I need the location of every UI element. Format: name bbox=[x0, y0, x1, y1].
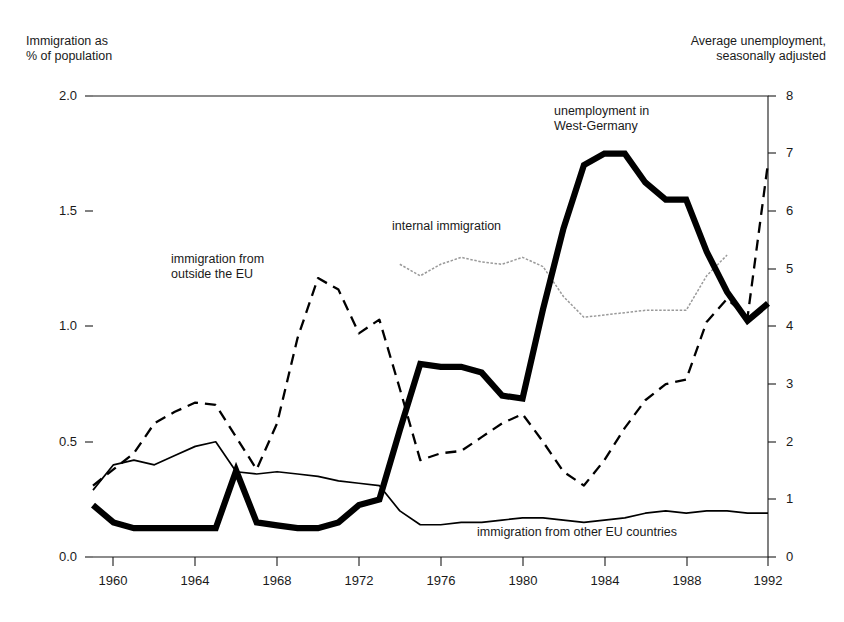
ytick-left-3: 1.5 bbox=[37, 203, 77, 218]
ytick-right-1: 1 bbox=[786, 491, 816, 506]
xtick-1984: 1984 bbox=[575, 573, 635, 588]
series-label-outside-eu: immigration from outside the EU bbox=[171, 252, 264, 282]
chart-figure: Immigration as % of population Average u… bbox=[0, 0, 844, 622]
ytick-right-3: 3 bbox=[786, 376, 816, 391]
plot-frame bbox=[93, 96, 768, 557]
series-group bbox=[93, 154, 768, 529]
xtick-1992: 1992 bbox=[738, 573, 798, 588]
series-internal-immigration bbox=[400, 255, 727, 317]
ytick-right-6: 6 bbox=[786, 203, 816, 218]
series-label-internal: internal immigration bbox=[392, 219, 501, 234]
xtick-1968: 1968 bbox=[247, 573, 307, 588]
left-axis-ticks bbox=[85, 96, 93, 557]
xtick-1980: 1980 bbox=[493, 573, 553, 588]
xtick-1964: 1964 bbox=[165, 573, 225, 588]
bottom-axis-ticks bbox=[113, 557, 768, 566]
series-label-unemployment: unemployment in West-Germany bbox=[554, 104, 649, 134]
ytick-right-0: 0 bbox=[786, 549, 816, 564]
ytick-right-8: 8 bbox=[786, 88, 816, 103]
series-unemployment-west-germany bbox=[93, 154, 768, 529]
ytick-left-1: 0.5 bbox=[37, 434, 77, 449]
ytick-left-2: 1.0 bbox=[37, 318, 77, 333]
series-label-other-eu: immigration from other EU countries bbox=[477, 525, 677, 540]
series-immigration-other-eu bbox=[93, 442, 768, 525]
series-immigration-outside-eu bbox=[93, 163, 768, 486]
ytick-right-5: 5 bbox=[786, 261, 816, 276]
right-axis-ticks bbox=[768, 96, 776, 557]
ytick-left-0: 0.0 bbox=[37, 549, 77, 564]
chart-canvas bbox=[0, 0, 844, 622]
xtick-1972: 1972 bbox=[329, 573, 389, 588]
xtick-1988: 1988 bbox=[657, 573, 717, 588]
xtick-1976: 1976 bbox=[411, 573, 471, 588]
ytick-right-2: 2 bbox=[786, 434, 816, 449]
ytick-right-4: 4 bbox=[786, 318, 816, 333]
ytick-right-7: 7 bbox=[786, 145, 816, 160]
xtick-1960: 1960 bbox=[83, 573, 143, 588]
ytick-left-4: 2.0 bbox=[37, 88, 77, 103]
